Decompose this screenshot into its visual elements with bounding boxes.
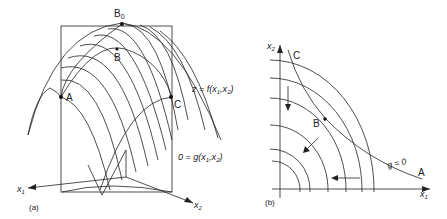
axis-x2-label-a: x2 bbox=[193, 200, 203, 211]
constraint-arc bbox=[100, 97, 172, 190]
contour-5 bbox=[270, 149, 310, 192]
point-B0 bbox=[120, 22, 124, 26]
surface-label: z = f(x1,x2) bbox=[191, 84, 233, 95]
label-C-b: C bbox=[293, 50, 300, 61]
point-B-a bbox=[115, 47, 118, 50]
label-C-a: C bbox=[174, 99, 181, 110]
x2-arrow-icon-b bbox=[277, 45, 283, 53]
label-B-a: B bbox=[114, 52, 121, 63]
point-A-a bbox=[59, 95, 63, 99]
panel-a bbox=[28, 23, 221, 203]
caption-a: (a) bbox=[29, 203, 39, 212]
contour-6 bbox=[272, 161, 300, 192]
point-B-b bbox=[323, 117, 327, 121]
constraint-label-a: 0 = g(x1,x2) bbox=[178, 152, 222, 163]
label-A-a: A bbox=[66, 92, 73, 103]
point-C-a bbox=[169, 95, 173, 99]
x2-arrow-icon bbox=[184, 197, 193, 203]
x1-arrow-icon bbox=[28, 184, 36, 190]
constraint-label-b: g = 0 bbox=[386, 156, 407, 170]
surface-outline bbox=[28, 23, 221, 140]
axis-x1-label-b: x1 bbox=[419, 189, 428, 200]
axis-x2-label-b: x2 bbox=[266, 41, 276, 52]
base-curve bbox=[62, 186, 172, 192]
axis-x1-label-a: x1 bbox=[16, 184, 25, 195]
label-B-b: B bbox=[313, 118, 320, 129]
arrow-left-icon bbox=[331, 175, 338, 181]
label-B0: B0 bbox=[114, 8, 125, 20]
contour-2 bbox=[270, 78, 362, 192]
caption-b: (b) bbox=[265, 198, 275, 207]
panel-b bbox=[270, 45, 430, 198]
label-A-b: A bbox=[418, 167, 425, 178]
figure-canvas: B0 B A C z = f(x1,x2) 0 = g(x1,x2) x1 x2… bbox=[0, 0, 447, 219]
arrow-down-icon bbox=[285, 104, 291, 111]
surface-left-edge bbox=[28, 88, 61, 135]
